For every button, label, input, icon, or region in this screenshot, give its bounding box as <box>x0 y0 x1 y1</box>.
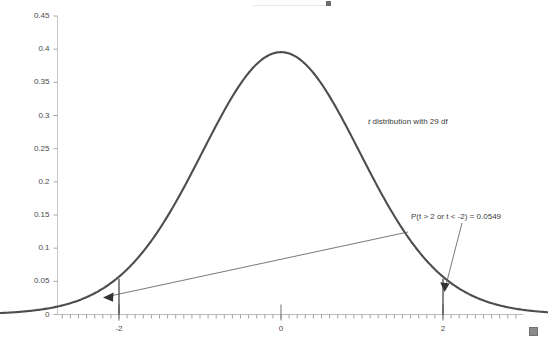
chart-canvas[interactable]: 00.050.10.150.20.250.30.350.40.45 -202 t… <box>0 0 548 343</box>
y-tick-label: 0.15 <box>0 210 50 219</box>
y-tick-label: 0.35 <box>0 77 50 86</box>
leader-line-right-tail <box>446 223 462 285</box>
distribution-annotation: t distribution with 29 df <box>368 117 448 126</box>
plot-area <box>0 0 548 343</box>
y-tick-label: 0.25 <box>0 144 50 153</box>
y-axis-ticks <box>54 16 58 315</box>
probability-annotation: P(t > 2 or t < -2) = 0.0549 <box>411 212 501 221</box>
y-tick-label: 0.1 <box>0 243 50 252</box>
arrow-head-right <box>440 282 449 292</box>
x-tick-label: 0 <box>261 324 301 333</box>
y-tick-label: 0.45 <box>0 11 50 20</box>
leader-line-left-tail <box>110 232 408 296</box>
y-tick-label: 0 <box>0 310 50 319</box>
y-tick-label: 0.3 <box>0 111 50 120</box>
x-tick-label: -2 <box>99 324 139 333</box>
distribution-annotation-text: distribution with 29 df <box>370 117 447 126</box>
y-tick-label: 0.2 <box>0 177 50 186</box>
resize-handle[interactable] <box>529 327 538 336</box>
x-tick-label: 2 <box>423 324 463 333</box>
y-tick-label: 0.4 <box>0 44 50 53</box>
y-tick-label: 0.05 <box>0 276 50 285</box>
arrow-head-left <box>103 293 114 302</box>
x-axis-minor-ticks <box>62 315 516 319</box>
t-distribution-curve <box>0 52 548 314</box>
